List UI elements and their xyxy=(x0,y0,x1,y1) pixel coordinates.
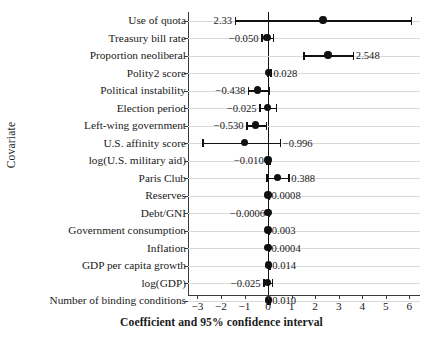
estimate-value-label: −0.530 xyxy=(214,117,244,135)
estimate-row: −0.050 xyxy=(188,30,420,48)
estimate-row: −0.530 xyxy=(188,117,420,135)
estimate-point xyxy=(324,51,331,58)
ci-cap-upper xyxy=(266,122,268,130)
estimate-point xyxy=(264,279,271,286)
ci-cap-upper xyxy=(272,279,274,287)
x-axis-tick xyxy=(315,295,316,299)
estimate-row: 0.0008 xyxy=(188,187,420,205)
estimate-row: −0.025 xyxy=(188,100,420,118)
x-axis-tick xyxy=(386,295,387,299)
estimate-point xyxy=(274,174,281,181)
plot-area: 2.33−0.0502.5480.028−0.438−0.025−0.530−0… xyxy=(188,12,420,300)
estimate-point xyxy=(263,34,270,41)
category-label: Political instability xyxy=(100,82,186,100)
category-label-column: Use of quotaTreasury bill rateProportion… xyxy=(18,12,186,300)
category-label: Treasury bill rate xyxy=(109,30,186,48)
estimate-value-label: 0.388 xyxy=(291,170,315,188)
estimate-row: −0.010 xyxy=(188,152,420,170)
category-label: log(GDP) xyxy=(141,275,186,293)
x-axis-tick xyxy=(409,295,410,299)
estimate-point xyxy=(241,139,248,146)
x-axis-tick xyxy=(268,295,269,299)
estimate-row: 0.014 xyxy=(188,257,420,275)
estimate-row: 0.003 xyxy=(188,222,420,240)
ci-cap-lower xyxy=(303,52,305,60)
ci-cap-lower xyxy=(266,174,268,182)
estimate-value-label: −0.025 xyxy=(231,275,261,293)
category-label: Government consumption xyxy=(68,222,186,240)
estimate-row: 0.028 xyxy=(188,65,420,83)
estimate-row: 0.0004 xyxy=(188,240,420,258)
estimate-point xyxy=(264,226,271,233)
ci-cap-upper xyxy=(288,174,290,182)
category-label: U.S. affinity score xyxy=(103,135,186,153)
ci-cap-upper xyxy=(276,104,278,112)
ci-cap-upper xyxy=(280,139,282,147)
ci-cap-upper xyxy=(411,17,413,25)
estimate-value-label: −0.0006 xyxy=(230,205,265,223)
ci-cap-lower xyxy=(248,87,250,95)
estimate-value-label: −0.010 xyxy=(234,152,264,170)
estimate-point xyxy=(252,121,259,128)
ci-cap-lower xyxy=(235,17,237,25)
ci-cap-upper xyxy=(269,87,271,95)
category-label: Reserves xyxy=(145,187,186,205)
category-label: log(U.S. military aid) xyxy=(89,152,186,170)
estimate-value-label: −0.996 xyxy=(283,135,313,153)
estimate-point xyxy=(264,156,271,163)
estimate-value-label: −0.025 xyxy=(227,100,257,118)
ci-cap-upper xyxy=(353,52,355,60)
category-label: Paris Club xyxy=(139,170,186,188)
estimate-value-label: 0.028 xyxy=(273,65,297,83)
x-axis-tick xyxy=(197,295,198,299)
ci-cap-lower xyxy=(246,122,248,130)
y-axis-title-text: Covariate xyxy=(5,122,17,169)
estimate-row: 2.548 xyxy=(188,47,420,65)
estimate-value-label: 0.0008 xyxy=(272,187,301,205)
estimate-row: 0.388 xyxy=(188,170,420,188)
coefficient-plot-figure: Covariate Use of quotaTreasury bill rate… xyxy=(0,0,443,339)
category-label: Proportion neoliberal xyxy=(90,47,186,65)
estimate-value-label: −0.050 xyxy=(229,30,259,48)
estimate-point xyxy=(265,261,272,268)
estimate-row: −0.0006 xyxy=(188,205,420,223)
estimate-point xyxy=(254,86,261,93)
ci-cap-lower xyxy=(259,104,261,112)
x-axis-tick xyxy=(245,295,246,299)
x-axis-tick-label: 6 xyxy=(394,300,424,312)
x-axis-tick xyxy=(339,295,340,299)
category-label: GDP per capita growth xyxy=(82,257,186,275)
estimate-value-label: 0.003 xyxy=(272,222,296,240)
x-axis-tick xyxy=(362,295,363,299)
ci-cap-upper xyxy=(273,34,275,42)
x-axis-title: Coefficient and 95% confidence interval xyxy=(0,316,443,329)
category-label: Inflation xyxy=(147,240,186,258)
category-label: Election period xyxy=(117,100,186,118)
estimate-point xyxy=(264,209,271,216)
category-label: Number of binding conditions xyxy=(50,292,187,310)
category-label: Polity2 score xyxy=(127,65,186,83)
estimate-point xyxy=(319,16,326,23)
ci-cap-lower xyxy=(202,139,204,147)
x-axis-tick xyxy=(221,295,222,299)
estimate-value-label: 2.33 xyxy=(214,12,233,30)
estimate-row: −0.025 xyxy=(188,275,420,293)
estimate-value-label: −0.438 xyxy=(216,82,246,100)
estimate-value-label: 2.548 xyxy=(356,47,380,65)
estimate-value-label: 0.0004 xyxy=(272,240,301,258)
category-label: Debt/GNI xyxy=(141,205,186,223)
x-axis-tick xyxy=(292,295,293,299)
estimate-row: −0.438 xyxy=(188,82,420,100)
estimate-point xyxy=(264,104,271,111)
estimate-row: 2.33 xyxy=(188,12,420,30)
estimate-value-label: 0.014 xyxy=(272,257,296,275)
category-label: Use of quota xyxy=(128,12,186,30)
estimate-row: −0.996 xyxy=(188,135,420,153)
category-label: Left-wing government xyxy=(84,117,186,135)
